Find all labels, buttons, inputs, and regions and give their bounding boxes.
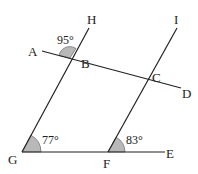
label-h: H <box>87 12 96 27</box>
angle-arc-f <box>108 137 125 152</box>
geometry-diagram: H I A B C D G F E 95° 77° 83° <box>0 0 198 174</box>
angle-label-g: 77° <box>42 133 59 147</box>
label-a: A <box>28 44 38 59</box>
label-f: F <box>103 156 110 171</box>
angle-label-b: 95° <box>57 33 74 47</box>
label-g: G <box>8 152 17 167</box>
label-i: I <box>174 12 178 27</box>
label-c: C <box>152 70 161 85</box>
angle-label-f: 83° <box>126 133 143 147</box>
label-e: E <box>166 146 174 161</box>
label-b: B <box>81 56 90 71</box>
angle-arc-g <box>22 135 41 152</box>
label-d: D <box>182 86 191 101</box>
